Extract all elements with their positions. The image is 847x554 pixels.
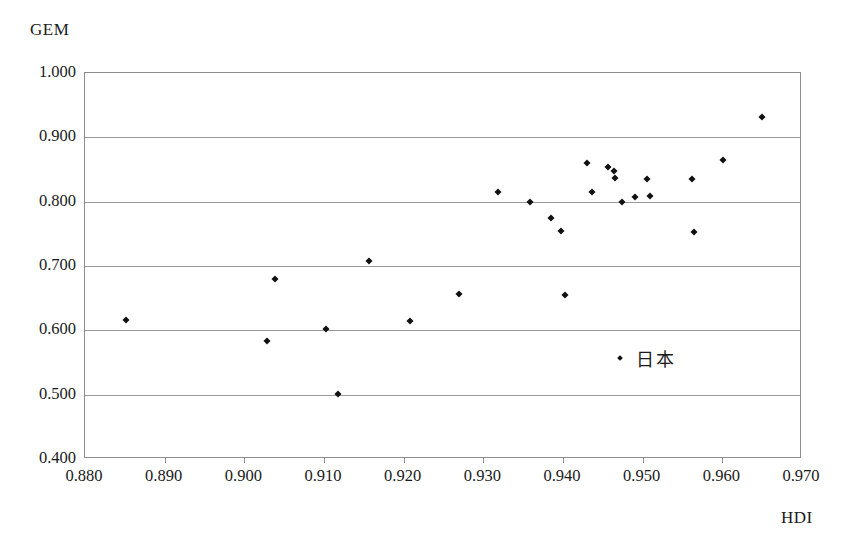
data-point — [720, 156, 727, 163]
gridline — [85, 330, 800, 331]
data-point — [366, 257, 373, 264]
gridline — [85, 202, 800, 203]
y-axis-tick-label: 0.400 — [39, 448, 76, 468]
legend: 日本 — [618, 345, 676, 371]
data-point — [456, 291, 463, 298]
data-point — [644, 176, 651, 183]
x-axis-tick-mark — [722, 457, 723, 463]
x-axis-tick-mark — [643, 457, 644, 463]
gridline — [85, 137, 800, 138]
x-axis-tick-label: 0.940 — [543, 466, 580, 486]
data-point — [122, 317, 129, 324]
x-axis-tick-mark — [165, 457, 166, 463]
x-axis-tick-mark — [404, 457, 405, 463]
scatter-chart: GEM 0.4000.5000.6000.7000.8000.9001.000 … — [0, 0, 847, 554]
x-axis-tick-label: 0.890 — [145, 466, 182, 486]
plot-area — [84, 72, 801, 458]
x-axis-title: HDI — [781, 508, 813, 528]
data-point — [495, 188, 502, 195]
data-point — [271, 275, 278, 282]
gridline — [85, 266, 800, 267]
data-point — [335, 391, 342, 398]
x-axis-tick-label: 0.970 — [782, 466, 819, 486]
data-point — [588, 188, 595, 195]
y-axis-tick-label: 1.000 — [39, 62, 76, 82]
x-axis-tick-mark — [483, 457, 484, 463]
x-axis-tick-label: 0.910 — [304, 466, 341, 486]
diamond-marker-icon — [617, 355, 623, 361]
data-point — [618, 198, 625, 205]
x-axis-tick-label: 0.900 — [225, 466, 262, 486]
data-point — [583, 159, 590, 166]
y-axis-tick-label: 0.500 — [39, 384, 76, 404]
data-point — [646, 193, 653, 200]
data-point — [691, 228, 698, 235]
x-axis-tick-mark — [244, 457, 245, 463]
x-axis-tick-label: 0.920 — [384, 466, 421, 486]
data-point — [406, 318, 413, 325]
gridline — [85, 395, 800, 396]
data-point — [610, 167, 617, 174]
x-axis-tick-label: 0.930 — [464, 466, 501, 486]
data-point — [611, 174, 618, 181]
x-axis-tick-label: 0.960 — [703, 466, 740, 486]
x-axis-tick-label: 0.950 — [623, 466, 660, 486]
y-axis-tick-label: 0.700 — [39, 255, 76, 275]
data-point — [264, 338, 271, 345]
legend-label: 日本 — [636, 345, 676, 371]
y-axis-tick-label: 0.600 — [39, 319, 76, 339]
data-point — [527, 199, 534, 206]
data-point — [548, 214, 555, 221]
data-point — [759, 113, 766, 120]
y-axis-tick-label: 0.900 — [39, 126, 76, 146]
data-point — [561, 292, 568, 299]
data-point — [689, 176, 696, 183]
data-point — [631, 194, 638, 201]
x-axis-tick-mark — [563, 457, 564, 463]
x-axis-tick-label: 0.880 — [65, 466, 102, 486]
x-axis-tick-mark — [324, 457, 325, 463]
data-point — [557, 227, 564, 234]
y-axis-tick-label: 0.800 — [39, 191, 76, 211]
